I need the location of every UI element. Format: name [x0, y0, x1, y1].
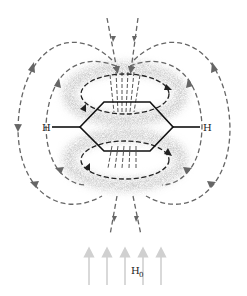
lower-electron-cloud — [69, 135, 181, 185]
diagram-svg: H H H 0 — [0, 0, 247, 296]
applied-field-subscript: 0 — [139, 271, 143, 279]
hydrogen-left-label: H — [42, 122, 51, 133]
ring-current-arrowheads — [80, 84, 172, 171]
ring-current-lower — [81, 141, 169, 179]
upper-electron-cloud — [69, 68, 181, 120]
ring-current-diagram: H H H 0 — [0, 0, 247, 296]
hydrogen-right-label: H — [203, 122, 212, 133]
applied-field-arrows — [89, 252, 161, 285]
